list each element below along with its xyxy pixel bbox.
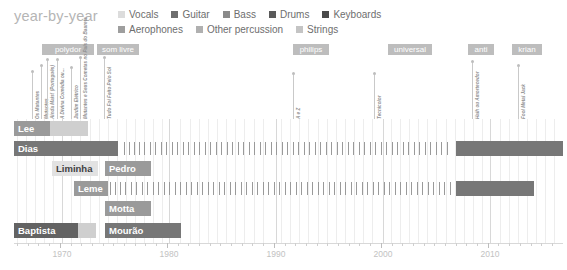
legend-item-other-percussion[interactable]: Other percussion	[196, 24, 283, 35]
album-title[interactable]: Tudo Foi Feito Pelo Sol	[107, 59, 112, 119]
timeline-bar[interactable]: Mourão	[105, 223, 181, 238]
legend-item-vocals[interactable]: Vocals	[118, 9, 158, 20]
axis-tick-minor	[156, 243, 157, 246]
axis-tick-minor	[28, 243, 29, 246]
timeline-bar-label: Liminha	[56, 161, 92, 176]
album-marker-dot	[373, 72, 376, 75]
x-axis: 19701980199020002010	[0, 243, 567, 270]
axis-tick-minor	[124, 243, 125, 246]
record-label-chip[interactable]: philips	[293, 44, 329, 55]
activity-tick	[172, 142, 173, 155]
legend-swatch-guitar	[171, 11, 178, 18]
activity-tick	[337, 142, 338, 155]
timeline-bar[interactable]: Motta	[105, 201, 151, 216]
activity-tick	[232, 142, 233, 155]
album-title[interactable]: Jardim Elétrico	[74, 69, 79, 119]
album-marker-dot	[79, 56, 82, 59]
activity-tick	[166, 142, 167, 155]
activity-tick	[345, 182, 346, 195]
activity-tick	[205, 142, 206, 155]
album-title[interactable]: Fool Metal Jack	[521, 67, 526, 119]
album-stem	[47, 61, 48, 119]
axis-tick-label: 1980	[160, 249, 179, 259]
activity-tick	[395, 182, 396, 195]
activity-tick	[422, 182, 423, 195]
activity-tick	[287, 142, 288, 155]
album-title[interactable]: A e Z	[296, 75, 301, 119]
legend-item-aerophones[interactable]: Aerophones	[118, 24, 183, 35]
activity-tick	[144, 142, 145, 155]
legend-swatch-strings	[296, 26, 303, 33]
timeline-row: Dias	[0, 141, 567, 156]
activity-tick	[378, 182, 379, 195]
axis-tick-minor	[509, 243, 510, 246]
activity-tick	[362, 182, 363, 195]
album-marker-dot	[46, 58, 49, 61]
timeline-bar[interactable]: Pedro	[105, 161, 151, 176]
legend-item-guitar[interactable]: Guitar	[171, 9, 209, 20]
activity-tick	[389, 182, 390, 195]
activity-tick	[315, 142, 316, 155]
record-label-chip[interactable]: som livre	[97, 44, 139, 55]
activity-tick	[381, 142, 382, 155]
activity-tick	[340, 182, 341, 195]
legend-label-drums: Drums	[280, 9, 309, 20]
timeline-bar-label: Lee	[18, 121, 34, 136]
timeline-bar[interactable]	[456, 181, 534, 196]
album-marker-dot	[292, 72, 295, 75]
legend-item-keyboards[interactable]: Keyboards	[322, 9, 381, 20]
record-label-chip[interactable]: krian	[512, 44, 542, 55]
album-title[interactable]: Tecnicolor	[377, 75, 382, 119]
activity-tick	[373, 182, 374, 195]
album-title[interactable]: Haih ou Amortecedor	[475, 63, 480, 119]
timeline-bar[interactable]	[78, 223, 96, 238]
activity-tick	[268, 182, 269, 195]
activity-tick	[183, 142, 184, 155]
activity-tick	[367, 182, 368, 195]
timeline-bar[interactable]: Dias	[14, 141, 118, 156]
activity-tick	[342, 142, 343, 155]
album-marker-dot	[517, 64, 520, 67]
legend-label-strings: Strings	[307, 24, 338, 35]
activity-tick	[235, 182, 236, 195]
album-title[interactable]: A Divina Comédia ou...	[60, 61, 65, 119]
axis-tick-minor	[145, 243, 146, 246]
timeline-bar[interactable]: Leme	[74, 181, 108, 196]
timeline-bar[interactable]	[50, 121, 88, 136]
axis-tick-minor	[81, 243, 82, 246]
record-label-chip[interactable]: anti	[468, 44, 494, 55]
activity-tick	[356, 182, 357, 195]
activity-tick	[323, 182, 324, 195]
timeline-bar[interactable]: Baptista	[14, 223, 78, 238]
axis-tick-minor	[49, 243, 50, 246]
activity-tick	[219, 182, 220, 195]
timeline-bar[interactable]	[456, 141, 563, 156]
legend-item-drums[interactable]: Drums	[269, 9, 309, 20]
album-title[interactable]: Mutantes e Seus Cometas no País do Baure…	[83, 59, 88, 119]
album-title[interactable]: Ainda Mais! (Português)	[50, 61, 55, 119]
album-title[interactable]: Os Mutantes	[35, 73, 40, 119]
legend-swatch-drums	[269, 11, 276, 18]
activity-tick	[257, 182, 258, 195]
activity-tick	[120, 182, 121, 195]
axis-tick-minor	[498, 243, 499, 246]
album-stem	[32, 73, 33, 119]
axis-tick-minor	[231, 243, 232, 246]
timeline-bar-label: Leme	[78, 181, 103, 196]
legend-item-strings[interactable]: Strings	[296, 24, 338, 35]
activity-tick	[444, 182, 445, 195]
record-label-chip[interactable]: universal	[388, 44, 432, 55]
activity-tick	[318, 182, 319, 195]
axis-tick-major	[488, 243, 489, 248]
activity-tick	[441, 142, 442, 155]
activity-tick	[180, 182, 181, 195]
activity-tick	[227, 142, 228, 155]
timeline-bar[interactable]: Liminha	[52, 161, 98, 176]
legend-label-bass: Bass	[234, 9, 256, 20]
timeline-bar[interactable]: Lee	[14, 121, 50, 136]
activity-tick	[115, 182, 116, 195]
activity-tick	[433, 182, 434, 195]
album-marker-dot	[56, 58, 59, 61]
legend-item-bass[interactable]: Bass	[223, 9, 256, 20]
activity-tick	[351, 182, 352, 195]
